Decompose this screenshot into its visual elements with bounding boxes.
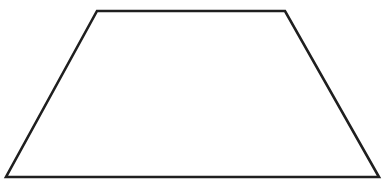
diagram-canvas <box>0 0 387 184</box>
background <box>0 0 387 184</box>
